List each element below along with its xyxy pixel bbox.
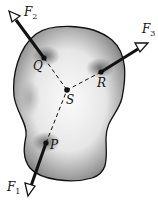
label-f3: F3 bbox=[141, 22, 155, 38]
label-q: Q bbox=[33, 59, 43, 73]
label-f1: F1 bbox=[6, 180, 20, 196]
label-r: R bbox=[96, 76, 106, 90]
label-p: P bbox=[49, 138, 59, 152]
point-s-dot bbox=[64, 87, 70, 93]
shade-left bbox=[20, 80, 40, 116]
point-p-dot bbox=[43, 140, 48, 145]
force-diagram: Q R S P F2 F3 F1 bbox=[0, 0, 158, 203]
label-s: S bbox=[66, 93, 74, 107]
point-r-dot bbox=[98, 69, 103, 74]
label-f2: F2 bbox=[23, 5, 37, 21]
